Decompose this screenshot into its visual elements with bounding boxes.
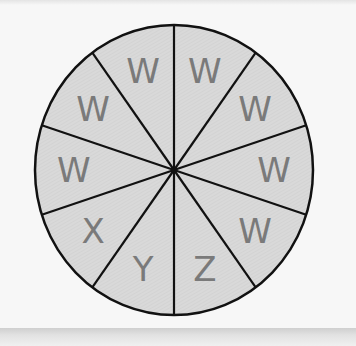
sector-label: W	[238, 89, 272, 129]
sector-label: Z	[193, 249, 216, 289]
sector-label: W	[257, 150, 291, 190]
bottom-edge	[0, 328, 356, 346]
sector-label: W	[188, 51, 222, 91]
spinner-wheel: WWWWZYXWWW	[0, 0, 356, 346]
sector-label: W	[126, 51, 160, 91]
sector-label: W	[238, 211, 272, 251]
sector-label: Y	[132, 249, 154, 289]
sector-label: W	[57, 150, 91, 190]
spinner-center	[171, 167, 177, 173]
sector-label: W	[76, 89, 110, 129]
sector-label: X	[81, 211, 104, 251]
